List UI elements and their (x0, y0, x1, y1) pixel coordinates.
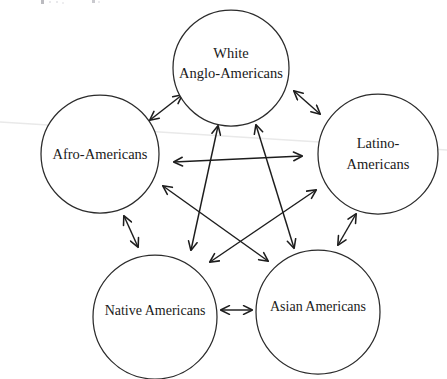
node-native-americans[interactable]: Native Americans (93, 255, 217, 379)
node-label-native-americans: Native Americans (105, 303, 206, 318)
node-label-asian-americans: Asian Americans (270, 299, 366, 314)
node-white-anglo-americans[interactable]: White Anglo-Americans (173, 10, 289, 126)
node-label-afro-americans: Afro-Americans (52, 146, 147, 162)
node-label-latino-americans-line1: Latino- (357, 135, 400, 151)
node-label-latino-americans-line2: Americans (347, 156, 410, 172)
node-latino-americans[interactable]: Latino- Americans (318, 94, 438, 214)
node-circle-latino-americans[interactable] (318, 94, 438, 214)
node-asian-americans[interactable]: Asian Americans (256, 250, 380, 374)
node-label-white-anglo-americans-line1: White (213, 45, 248, 61)
node-label-white-anglo-americans-line2: Anglo-Americans (179, 65, 283, 81)
diagram-canvas: White Anglo-Americans Afro-Americans Lat… (0, 0, 447, 379)
ethnic-groups-relationship-diagram: White Anglo-Americans Afro-Americans Lat… (0, 0, 447, 379)
node-afro-americans[interactable]: Afro-Americans (41, 95, 159, 213)
